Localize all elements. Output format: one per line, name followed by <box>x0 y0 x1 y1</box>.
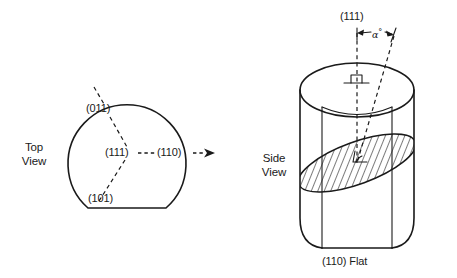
top-view-label: Top View <box>13 141 55 168</box>
top-view-direction-arrow <box>204 149 215 158</box>
side-view-label: Side View <box>252 152 296 179</box>
plane-label-111-side: (111) <box>340 10 364 23</box>
top-view-plane-traces <box>94 87 205 201</box>
plane-label-111-top: (111) <box>105 146 129 159</box>
flat-label-110: (110) Flat <box>322 255 367 268</box>
figure-vector-canvas <box>0 0 457 278</box>
side-view-hatched-plane <box>292 122 423 204</box>
side-view-label-line1: Side <box>252 152 296 166</box>
plane-label-110-top: (110) <box>157 146 181 159</box>
plane-label-101: (101) <box>88 192 113 205</box>
plane-label-011: (011) <box>86 102 110 115</box>
top-view-label-line2: View <box>13 155 55 169</box>
wafer-orientation-figure: Top View (011) (111) (110) (101) (111) α… <box>0 0 457 278</box>
degree-symbol: ° <box>378 27 382 36</box>
side-view-label-line2: View <box>252 166 296 180</box>
alpha-angle-label: α° <box>372 25 382 41</box>
top-view-label-line1: Top <box>13 141 55 155</box>
